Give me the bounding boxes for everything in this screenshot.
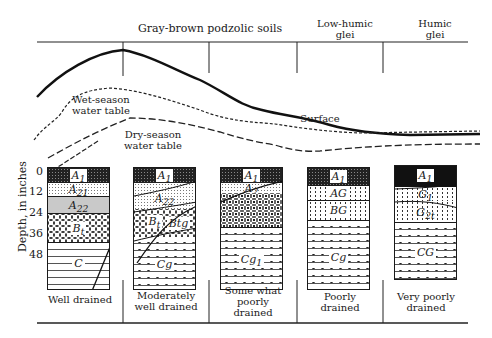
group-label-gray-brown-podzolic: Gray-brown podzolic soils bbox=[130, 23, 290, 34]
wet-season-label: Wet-season water table bbox=[70, 94, 132, 116]
drainage-label-moderately-well: Moderately well drained bbox=[123, 290, 209, 312]
horizon-label: A1 bbox=[330, 170, 348, 183]
horizon-label: Cg bbox=[329, 251, 348, 264]
surface-line bbox=[37, 50, 480, 135]
group-label-line: glei bbox=[405, 29, 465, 40]
dry-season-label: Dry-season water table bbox=[123, 129, 183, 151]
horizon-a1: A1 bbox=[308, 168, 369, 186]
label-line: well drained bbox=[123, 301, 209, 312]
horizon-a1: A1 bbox=[48, 168, 109, 183]
soil-profile-very-poorly-drained: A1 G1 G2t CG bbox=[394, 165, 457, 280]
group-label-humic-glei: Humic glei bbox=[405, 18, 465, 40]
boundary-line bbox=[48, 243, 110, 290]
group-label-line: Humic bbox=[405, 18, 465, 29]
dry-season-water-table-line bbox=[48, 118, 480, 158]
horizon-label: AG bbox=[328, 187, 349, 200]
drainage-label-somewhat-poorly: Some what poorly drained bbox=[209, 285, 297, 318]
label-line: Moderately bbox=[123, 290, 209, 301]
group-label-line: Low-humic bbox=[310, 18, 380, 29]
horizon-bg: BG bbox=[308, 201, 369, 221]
depth-tick: 12 bbox=[25, 186, 43, 197]
horizon-boundaries bbox=[134, 168, 196, 290]
depth-tick: 48 bbox=[25, 249, 43, 260]
label-line: Wet-season bbox=[70, 94, 132, 105]
horizon-a21: A21 bbox=[48, 183, 109, 197]
horizon-boundaries bbox=[221, 168, 283, 228]
drainage-label-well: Well drained bbox=[37, 294, 123, 305]
horizon-boundaries bbox=[395, 166, 457, 223]
horizon-label: Cg1 bbox=[239, 253, 264, 266]
horizon-label: CG bbox=[415, 246, 436, 259]
label-line: Very poorly bbox=[383, 291, 469, 302]
leader-line bbox=[58, 141, 98, 167]
soil-profile-poorly-drained: A1 AG BG Cg bbox=[307, 167, 370, 290]
label-line: water table bbox=[70, 105, 132, 116]
horizon-cg1: Cg1 bbox=[221, 228, 282, 290]
label-line: drained bbox=[297, 302, 383, 313]
horizon-label: A1 bbox=[70, 169, 88, 182]
horizon-c: C bbox=[48, 243, 109, 290]
horizon-cg: CG bbox=[395, 223, 456, 280]
horizon-label: Bt bbox=[71, 222, 87, 235]
label-line: drained bbox=[209, 307, 297, 318]
soil-profile-somewhat-poorly-drained: A1 A2 Cg1 bbox=[220, 167, 283, 290]
horizon-a22: A22 bbox=[48, 197, 109, 214]
surface-label: Surface bbox=[300, 113, 340, 124]
label-line: drained bbox=[383, 302, 469, 313]
drainage-label-very-poorly: Very poorly drained bbox=[383, 291, 469, 313]
label-line: Some what bbox=[209, 285, 297, 296]
horizon-label: BG bbox=[328, 204, 349, 217]
group-label-line: glei bbox=[310, 29, 380, 40]
group-label-low-humic-glei: Low-humic glei bbox=[310, 18, 380, 40]
soil-profile-well-drained: A1 A21 A22 Bt C bbox=[47, 167, 110, 290]
depth-tick: 36 bbox=[25, 228, 43, 239]
drainage-label-poorly: Poorly drained bbox=[297, 291, 383, 313]
soil-profile-moderately-well-drained: A1 A22 Bt Btg Cg bbox=[133, 167, 196, 290]
horizon-label: A22 bbox=[48, 200, 109, 214]
depth-tick: 24 bbox=[25, 207, 43, 218]
depth-tick: 0 bbox=[25, 166, 43, 177]
label-line: Dry-season bbox=[123, 129, 183, 140]
label-line: Poorly bbox=[297, 291, 383, 302]
label-line: water table bbox=[123, 140, 183, 151]
horizon-bt: Bt bbox=[48, 214, 109, 243]
label-line: poorly bbox=[209, 296, 297, 307]
horizon-ag: AG bbox=[308, 186, 369, 201]
horizon-cg: Cg bbox=[308, 221, 369, 290]
